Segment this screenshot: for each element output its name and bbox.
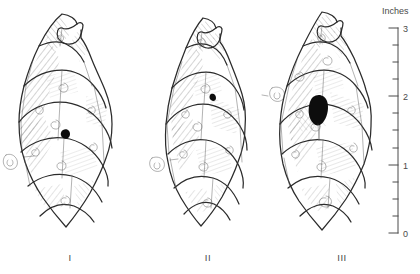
- scale-label-1: 1: [403, 161, 408, 171]
- specimen-label-II: II: [205, 252, 211, 263]
- specimen-label-I: I: [68, 252, 71, 263]
- scale-label-2: 2: [403, 92, 408, 102]
- specimen-label-III: III: [337, 252, 346, 263]
- figure-canvas: I II III Inches 3 2 1 0: [0, 0, 420, 274]
- scale-label-0: 0: [403, 229, 408, 239]
- scale-title: Inches: [382, 6, 409, 16]
- scale-label-3: 3: [403, 24, 408, 34]
